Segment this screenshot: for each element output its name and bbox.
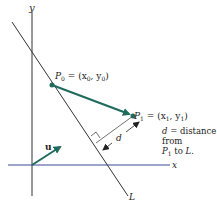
y-axis-label: y <box>28 2 35 13</box>
p1-label: P1 = (x1, y1) <box>133 111 188 122</box>
d-arrow-lower <box>103 143 112 150</box>
right-angle-marker <box>91 132 100 138</box>
u-label: u <box>45 142 52 152</box>
line-L-label: L <box>128 192 135 202</box>
diagram-canvas: y x L P0 = (x0, y0) P1 = (x1, y1) u d d … <box>0 0 217 204</box>
point-p0 <box>50 83 55 88</box>
d-arrow-upper <box>126 122 139 132</box>
p0-label: P0 = (x0, y0) <box>54 71 109 82</box>
note-line-3: P1 to L. <box>161 146 194 157</box>
line-L <box>12 22 128 196</box>
note-line-1: d = distance <box>162 126 216 136</box>
note-line-2: from <box>162 136 182 146</box>
x-axis-label: x <box>172 160 177 170</box>
d-label: d <box>116 133 122 143</box>
perpendicular-line <box>96 116 133 143</box>
